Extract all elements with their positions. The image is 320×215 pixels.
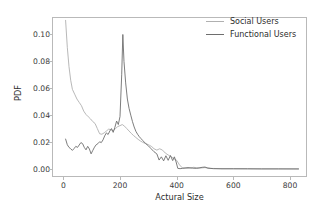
legend-item[interactable]: Social Users — [206, 15, 296, 28]
y-tick-mark — [49, 169, 52, 170]
y-tick-label: 0.08 — [33, 57, 50, 66]
x-tick-mark — [233, 177, 234, 180]
x-tick-label: 600 — [226, 181, 241, 190]
y-axis-tick-labels: 0.000.020.040.060.080.10 — [0, 0, 50, 215]
x-tick-mark — [63, 177, 64, 180]
x-tick-label: 0 — [61, 181, 66, 190]
y-tick-mark — [49, 34, 52, 35]
x-tick-mark — [120, 177, 121, 180]
y-tick-mark — [49, 88, 52, 89]
legend-label: Functional Users — [230, 30, 296, 39]
y-tick-label: 0.02 — [33, 138, 50, 147]
series-line — [66, 20, 299, 169]
x-tick-label: 400 — [169, 181, 184, 190]
x-tick-mark — [290, 177, 291, 180]
chart-legend: Social UsersFunctional Users — [206, 15, 296, 41]
y-tick-label: 0.04 — [33, 111, 50, 120]
y-tick-label: 0.00 — [33, 164, 50, 173]
y-tick-mark — [49, 115, 52, 116]
x-axis-label: Actural Size — [52, 192, 307, 202]
chart-plot-area — [52, 17, 307, 177]
y-axis-label: PDF — [13, 63, 23, 123]
legend-line-swatch — [206, 34, 224, 35]
x-tick-label: 800 — [283, 181, 298, 190]
y-tick-label: 0.06 — [33, 84, 50, 93]
series-line — [66, 34, 299, 168]
legend-label: Social Users — [230, 17, 279, 26]
x-tick-mark — [177, 177, 178, 180]
y-tick-mark — [49, 61, 52, 62]
legend-line-swatch — [206, 21, 224, 22]
legend-item[interactable]: Functional Users — [206, 28, 296, 41]
figure-canvas: 0.000.020.040.060.080.10 0200400600800 A… — [0, 0, 320, 215]
y-tick-mark — [49, 142, 52, 143]
x-tick-label: 200 — [113, 181, 128, 190]
y-tick-label: 0.10 — [33, 30, 50, 39]
